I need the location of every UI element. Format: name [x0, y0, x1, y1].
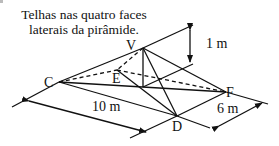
height-label: 1 m [206, 36, 228, 51]
vertex-label-C: C [44, 75, 53, 90]
diagram-svg: V C E F D 1 m 10 m 6 m [0, 0, 279, 146]
length-dimension-arrow [29, 101, 146, 132]
vertex-label-V: V [126, 38, 136, 53]
edge-VD [143, 48, 177, 116]
vertex-label-D: D [172, 119, 182, 134]
width-label: 6 m [217, 101, 239, 116]
vertex-label-F: F [226, 85, 234, 100]
reference-line-top [143, 25, 193, 48]
reference-line-mid [143, 64, 193, 87]
extension-line-D-left [130, 116, 177, 138]
edge-CE-hidden [59, 70, 117, 82]
edge-CV [59, 48, 143, 82]
vertex-label-E: E [112, 71, 121, 86]
pyramid-diagram: Telhas nas quatro faces laterais da pirâ… [0, 0, 279, 146]
length-label: 10 m [92, 99, 121, 114]
diagonal-ED [117, 70, 177, 116]
edge-VF [143, 48, 226, 92]
